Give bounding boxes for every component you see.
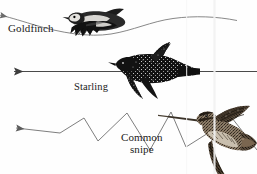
label-common-snipe-line1: Common xyxy=(121,131,163,143)
label-goldfinch: Goldfinch xyxy=(8,23,54,35)
bird-flight-paths-figure: Goldfinch Starling Commonsnipe xyxy=(0,0,257,174)
label-starling: Starling xyxy=(74,81,108,92)
label-common-snipe-line2: snipe xyxy=(121,144,163,156)
scan-seam-artifact xyxy=(213,0,215,174)
scan-seam-artifact-secondary xyxy=(186,0,187,174)
label-common-snipe: Commonsnipe xyxy=(121,132,163,155)
goldfinch-bird xyxy=(63,8,126,36)
